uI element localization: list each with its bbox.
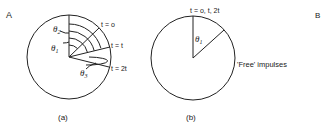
time-label-b: t = o, t, 2t [190,7,219,14]
leader-theta3 [86,63,96,69]
radius-t0 [69,28,99,57]
theta2-label: θ2 [53,24,60,35]
theta1-label-b: θ1 [195,34,202,45]
figure-canvas: A θ2 θ1 θ3 t = o t = t t = 2t (a) θ1 t =… [0,0,328,134]
radius-t1 [69,47,110,57]
arc-a3 [69,31,94,51]
diagram-a [27,15,111,99]
leader-theta2 [60,31,69,33]
panel-label-a: A [6,10,12,20]
time-label-t1: t = t [111,42,123,49]
time-label-t0: t = o [101,21,115,28]
leader-theta1 [63,42,69,43]
caption-b: (b) [186,113,196,122]
caption-a: (a) [58,113,68,122]
free-impulses-label: 'Free' impulses [237,60,287,69]
panel-label-b: B [315,11,320,20]
diagram-b [151,16,235,100]
time-label-t2: t = 2t [111,65,127,72]
arc-theta1 [69,45,78,49]
theta3-label: θ3 [80,68,87,79]
theta1-label: θ1 [51,43,58,54]
